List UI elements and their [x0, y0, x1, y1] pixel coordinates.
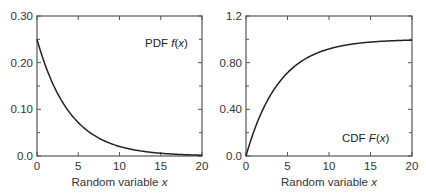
- x-tick-label: 0: [34, 160, 40, 172]
- y-tick-label: 0.0: [17, 150, 33, 162]
- x-tick-label: 15: [154, 160, 167, 172]
- y-tick-label: 0.10: [11, 103, 33, 115]
- y-tick-label: 0.80: [220, 57, 242, 69]
- x-tick-label: 20: [196, 160, 209, 172]
- pdf-annotation: PDF f(x): [145, 37, 188, 49]
- x-tick-label: 0: [243, 160, 249, 172]
- y-tick-label: 1.2: [226, 10, 242, 22]
- x-axis-label: Random variable x: [281, 176, 378, 188]
- y-tick-label: 0.0: [226, 150, 242, 162]
- x-tick-label: 5: [75, 160, 81, 172]
- x-tick-label: 20: [406, 160, 419, 172]
- cdf-plot-panel: 051015200.00.400.801.2CDF F(x)Random var…: [220, 10, 419, 188]
- x-tick-label: 10: [113, 160, 126, 172]
- y-tick-label: 0.40: [220, 103, 242, 115]
- cdf-annotation: CDF F(x): [342, 132, 389, 144]
- y-tick-label: 0.30: [11, 10, 33, 22]
- chart-figure: 051015200.00.100.200.30PDF f(x)Random va…: [0, 0, 426, 194]
- pdf-curve: [37, 39, 202, 155]
- x-tick-label: 15: [364, 160, 377, 172]
- x-tick-label: 10: [323, 160, 336, 172]
- x-axis-label: Random variable x: [72, 176, 169, 188]
- y-tick-label: 0.20: [11, 57, 33, 69]
- pdf-plot-panel: 051015200.00.100.200.30PDF f(x)Random va…: [11, 10, 209, 188]
- x-tick-label: 5: [284, 160, 290, 172]
